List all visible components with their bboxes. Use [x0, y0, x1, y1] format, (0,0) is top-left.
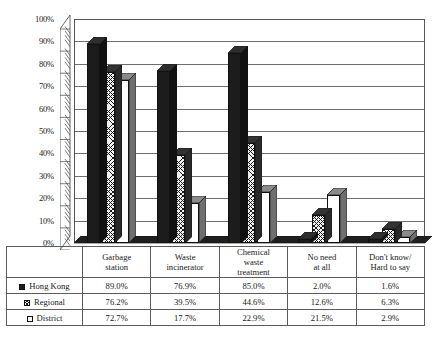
legend-item-regional[interactable]: Regional: [7, 294, 83, 310]
data-cell: 44.6%: [219, 294, 287, 310]
table-row: Regional76.2%39.5%44.6%12.6%6.3%: [7, 294, 425, 310]
legend-label: District: [37, 313, 63, 323]
table-row: District72.7%17.7%22.9%21.5%2.9%: [7, 310, 425, 326]
bar-front-face: [368, 239, 381, 243]
category-header-line: Garbage: [83, 252, 150, 262]
bar-front-face: [87, 44, 100, 243]
legend-label: Hong Kong: [29, 281, 69, 291]
data-cell: 17.7%: [151, 310, 219, 326]
legend-label: Regional: [34, 297, 65, 307]
bar-front-face: [157, 71, 170, 243]
data-cell: 89.0%: [83, 278, 151, 294]
category-header-1: Wasteincinerator: [151, 247, 219, 278]
bar-hong-kong-cat2[interactable]: [228, 46, 248, 243]
legend-swatch-icon: [24, 300, 30, 306]
data-cell: 39.5%: [151, 294, 219, 310]
category-header-line: at all: [288, 262, 355, 272]
category-header-line: Chemical: [220, 247, 287, 257]
bar-hong-kong-cat1[interactable]: [157, 64, 177, 243]
bar-hong-kong-cat3[interactable]: [298, 232, 318, 243]
data-cell: 76.2%: [83, 294, 151, 310]
legend-swatch-icon: [19, 284, 25, 290]
category-header-line: Waste: [151, 252, 218, 262]
legend-swatch-icon: [27, 316, 33, 322]
category-header-line: Don't know/: [357, 252, 424, 262]
data-cell: 72.7%: [83, 310, 151, 326]
data-cell: 12.6%: [288, 294, 356, 310]
plot-region: 0%10%20%30%40%50%60%70%80%90%100%: [0, 0, 434, 258]
table-row: Hong Kong89.0%76.9%85.0%2.0%1.6%: [7, 278, 425, 294]
data-cell: 2.9%: [356, 310, 424, 326]
chart-container: 0%10%20%30%40%50%60%70%80%90%100% Garbag…: [0, 0, 434, 337]
data-cell: 2.0%: [288, 278, 356, 294]
category-header-line: incinerator: [151, 262, 218, 272]
data-cell: 21.5%: [288, 310, 356, 326]
category-header-3: No needat all: [288, 247, 356, 278]
data-cell: 22.9%: [219, 310, 287, 326]
data-cell: 6.3%: [356, 294, 424, 310]
bar-hong-kong-cat4[interactable]: [368, 232, 388, 243]
category-header-line: No need: [288, 252, 355, 262]
table-category-header-row: GarbagestationWasteincineratorChemicalwa…: [7, 247, 425, 278]
data-cell: 1.6%: [356, 278, 424, 294]
data-table: GarbagestationWasteincineratorChemicalwa…: [6, 246, 425, 326]
data-cell: 85.0%: [219, 278, 287, 294]
bar-front-face: [228, 53, 241, 243]
table-corner-cell: [7, 247, 83, 278]
category-header-line: Hard to say: [357, 262, 424, 272]
data-cell: 76.9%: [151, 278, 219, 294]
bar-front-face: [298, 239, 311, 243]
bars-layer: [0, 0, 434, 258]
category-header-0: Garbagestation: [83, 247, 151, 278]
data-table-wrapper: GarbagestationWasteincineratorChemicalwa…: [6, 246, 428, 334]
category-header-line: waste: [220, 257, 287, 267]
legend-item-district[interactable]: District: [7, 310, 83, 326]
category-header-4: Don't know/Hard to say: [356, 247, 424, 278]
bar-hong-kong-cat0[interactable]: [87, 37, 107, 243]
category-header-line: station: [83, 262, 150, 272]
category-header-line: treatment: [220, 267, 287, 277]
legend-item-hong-kong[interactable]: Hong Kong: [7, 278, 83, 294]
category-header-2: Chemicalwastetreatment: [219, 247, 287, 278]
